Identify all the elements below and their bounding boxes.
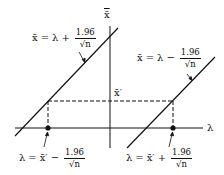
xbar-prime-label-text: x̄′ xyxy=(114,88,122,98)
xbar-axis-label-text: x̄ xyxy=(104,10,110,20)
eq-numerator: 1.96 xyxy=(180,48,201,59)
left-bound-point xyxy=(45,125,50,130)
lambda-axis-label-text: λ xyxy=(207,123,213,133)
eq-numerator: 1.96 xyxy=(75,28,96,39)
eq-rhs: λ xyxy=(52,33,58,43)
eq-lhs: x̄ xyxy=(137,53,143,63)
eq-fraction: 1.96 √n xyxy=(180,48,201,68)
xbar-prime-label: x̄′ xyxy=(114,88,122,98)
eq-fraction: 1.96 √n xyxy=(64,148,85,168)
eq-denominator: √n xyxy=(185,59,196,69)
eq-denominator: √n xyxy=(176,159,187,169)
eq-sign: = xyxy=(135,153,143,163)
eq-numerator: 1.96 xyxy=(171,148,192,159)
lower-label-arrow xyxy=(187,74,192,81)
eq-sign: = xyxy=(146,53,154,63)
right-bound-arrow xyxy=(169,132,174,147)
eq-numerator: 1.96 xyxy=(64,148,85,159)
eq-lhs: λ xyxy=(19,153,25,163)
eq-op: − xyxy=(166,53,174,63)
eq-sign: = xyxy=(41,33,49,43)
lambda-axis-label: λ xyxy=(207,123,213,133)
right-bound-point xyxy=(170,125,175,130)
eq-op: + xyxy=(61,33,69,43)
upper-line-equation: x̄ = λ + 1.96 √n xyxy=(32,28,96,48)
eq-op: + xyxy=(158,153,166,163)
xbar-axis-label: x̄ xyxy=(104,10,110,20)
right-bound-equation: λ = x̄′ + 1.96 √n xyxy=(126,148,192,168)
eq-rhs: x̄′ xyxy=(147,153,155,163)
eq-op: − xyxy=(51,153,59,163)
eq-lhs: λ xyxy=(126,153,132,163)
left-bound-arrow xyxy=(44,132,49,147)
eq-rhs: λ xyxy=(157,53,163,63)
lower-line-equation: x̄ = λ − 1.96 √n xyxy=(137,48,201,68)
eq-fraction: 1.96 √n xyxy=(171,148,192,168)
eq-rhs: x̄′ xyxy=(40,153,48,163)
left-bound-equation: λ = x̄′ − 1.96 √n xyxy=(19,148,85,168)
eq-denominator: √n xyxy=(80,39,91,49)
eq-fraction: 1.96 √n xyxy=(75,28,96,48)
eq-sign: = xyxy=(28,153,36,163)
upper-label-arrow xyxy=(79,52,85,63)
eq-lhs: x̄ xyxy=(32,33,38,43)
eq-denominator: √n xyxy=(69,159,80,169)
